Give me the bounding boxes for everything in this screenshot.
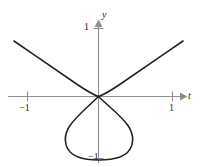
y-axis-group xyxy=(94,20,104,164)
figure-container: y t 1 −1 1 −1 xyxy=(0,0,201,167)
curve-upper-right-branch xyxy=(99,41,184,97)
y-axis-label: y xyxy=(102,10,106,20)
y-axis-arrowhead xyxy=(95,20,103,28)
curve-upper-left-branch xyxy=(14,41,99,97)
t-tick-label-neg1: −1 xyxy=(19,103,30,113)
y-tick-label-1: 1 xyxy=(84,22,89,32)
t-axis-arrowhead xyxy=(180,93,188,101)
t-axis-label: t xyxy=(188,91,191,101)
y-tick-label-neg1: −1 xyxy=(88,152,99,162)
t-tick-label-1: 1 xyxy=(169,103,174,113)
plot-canvas xyxy=(0,0,201,167)
